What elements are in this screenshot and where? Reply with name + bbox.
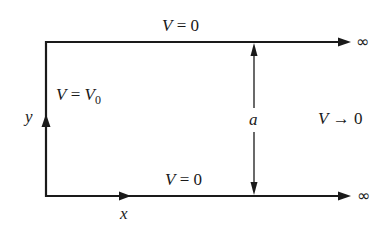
left-boundary-line: [42, 41, 51, 197]
y-axis-label: y: [25, 108, 33, 126]
bottom-infinity-icon: ∞: [357, 188, 370, 204]
y-axis-arrow-icon: [42, 114, 51, 127]
dimension-arrow-up-icon: [251, 43, 258, 56]
dimension-arrow-down-icon: [251, 182, 258, 195]
top-arrow-icon: [338, 38, 351, 47]
far-field-label: V → 0: [318, 110, 362, 128]
bottom-boundary-line: [46, 192, 351, 201]
bottom-arrow-icon: [338, 192, 351, 201]
width-label: a: [249, 111, 258, 129]
bottom-boundary-label: V = 0: [165, 171, 202, 189]
top-infinity-icon: ∞: [356, 34, 369, 50]
x-axis-arrow-icon: [119, 192, 131, 201]
left-boundary-label: V = V0: [56, 86, 101, 109]
top-boundary-line: [46, 38, 351, 47]
slot-diagram: V = 0 V = 0 V = V0 y x a V → 0 ∞ ∞: [0, 0, 392, 231]
top-boundary-label: V = 0: [162, 17, 199, 35]
x-axis-label: x: [120, 205, 128, 223]
